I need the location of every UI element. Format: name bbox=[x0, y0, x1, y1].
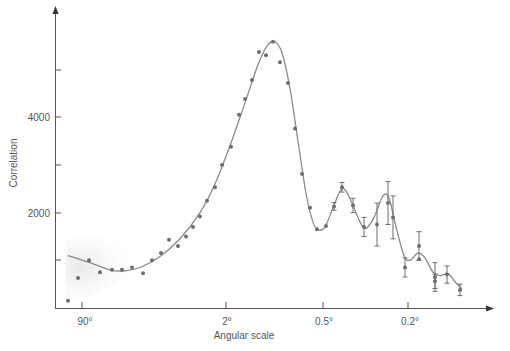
data-point bbox=[176, 244, 180, 248]
data-point bbox=[324, 224, 328, 228]
data-point bbox=[340, 185, 344, 189]
y-axis bbox=[56, 12, 62, 308]
data-point bbox=[264, 53, 268, 57]
data-point bbox=[76, 276, 80, 280]
data-point bbox=[445, 273, 449, 277]
data-point bbox=[243, 97, 247, 101]
data-point bbox=[191, 225, 195, 229]
data-point bbox=[250, 78, 254, 82]
y-tick-label-4000: 4000 bbox=[28, 112, 51, 123]
x-tick-label-2: 2° bbox=[222, 316, 232, 327]
y-axis-arrow-icon bbox=[53, 6, 59, 14]
data-point bbox=[278, 60, 282, 64]
data-point bbox=[141, 271, 145, 275]
data-point bbox=[417, 257, 421, 261]
x-tick-label-90: 90° bbox=[77, 316, 92, 327]
x-axis bbox=[55, 302, 488, 309]
data-point bbox=[213, 185, 217, 189]
data-point bbox=[237, 113, 241, 117]
data-point bbox=[271, 40, 275, 44]
data-point bbox=[403, 266, 407, 270]
data-point bbox=[229, 145, 233, 149]
power-spectrum-chart: 4000 2000 90° 2° 0.5° 0.2° Correlation A… bbox=[0, 0, 510, 351]
x-axis-arrow-icon bbox=[486, 306, 494, 312]
x-axis-title: Angular scale bbox=[214, 330, 275, 341]
data-point bbox=[205, 199, 209, 203]
data-point bbox=[332, 204, 336, 208]
data-point bbox=[433, 279, 437, 283]
data-point bbox=[150, 258, 154, 262]
data-point bbox=[286, 81, 290, 85]
y-tick-label-2000: 2000 bbox=[28, 208, 51, 219]
data-point bbox=[391, 215, 395, 219]
x-tick-label-0.5: 0.5° bbox=[315, 316, 333, 327]
data-point bbox=[220, 163, 224, 167]
data-point bbox=[293, 127, 297, 131]
data-point bbox=[120, 268, 124, 272]
data-point bbox=[184, 234, 188, 238]
data-point bbox=[130, 266, 134, 270]
data-point bbox=[66, 299, 70, 303]
data-point bbox=[315, 227, 319, 231]
data-point bbox=[198, 214, 202, 218]
data-point bbox=[417, 244, 421, 248]
data-point bbox=[375, 223, 379, 227]
data-point bbox=[386, 201, 390, 205]
data-point bbox=[159, 251, 163, 255]
x-tick-label-0.2: 0.2° bbox=[401, 316, 419, 327]
data-point bbox=[300, 172, 304, 176]
data-point bbox=[257, 50, 261, 54]
data-point bbox=[167, 238, 171, 242]
y-axis-title: Correlation bbox=[8, 139, 19, 188]
data-point bbox=[362, 225, 366, 229]
data-point bbox=[87, 258, 91, 262]
data-point bbox=[98, 270, 102, 274]
data-point bbox=[351, 203, 355, 207]
data-point bbox=[458, 288, 462, 292]
data-point bbox=[110, 268, 114, 272]
data-point bbox=[308, 206, 312, 210]
